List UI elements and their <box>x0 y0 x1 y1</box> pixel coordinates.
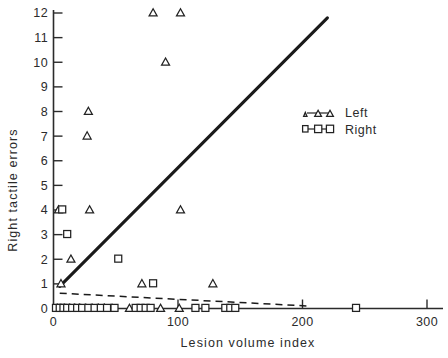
y-tick-label: 5 <box>41 179 48 193</box>
data-point-left <box>138 280 146 287</box>
data-point-right <box>353 304 360 311</box>
legend-label-right: Right <box>345 123 377 137</box>
left-regression-line <box>60 18 328 286</box>
x-tick-label: 0 <box>50 315 57 329</box>
y-tick-label: 0 <box>41 302 48 316</box>
data-point-right <box>202 304 209 311</box>
data-point-right <box>147 304 154 311</box>
data-point-right <box>192 304 199 311</box>
y-tick-label: 9 <box>41 80 48 94</box>
x-tick-label: 100 <box>167 315 189 329</box>
data-point-left <box>83 132 91 139</box>
y-axis-title: Right tactile errors <box>6 128 20 251</box>
x-tick-label: 200 <box>291 315 313 329</box>
data-point-left <box>176 9 184 16</box>
scatter-plot-figure: 0123456789101112 0100200300 Left <box>0 0 448 358</box>
data-point-right <box>104 304 111 311</box>
y-tick-label: 11 <box>34 31 48 45</box>
y-tick-label: 6 <box>41 154 48 168</box>
y-tick-label: 3 <box>41 228 48 242</box>
y-axis-tick-labels: 0123456789101112 <box>33 6 48 316</box>
x-axis-title: Lesion volume index <box>181 336 316 350</box>
legend-square-icon-2 <box>315 125 322 132</box>
legend-triangle-icon-1 <box>304 112 307 116</box>
legend-entry-left: Left <box>304 106 368 120</box>
data-point-left <box>67 255 75 262</box>
data-point-left <box>209 280 217 287</box>
legend: Left Right <box>303 106 377 137</box>
data-point-right <box>64 231 71 238</box>
data-point-right <box>115 255 122 262</box>
data-point-left <box>86 206 94 213</box>
data-point-right <box>111 304 118 311</box>
y-tick-label: 12 <box>33 6 48 20</box>
data-point-right <box>150 280 157 287</box>
y-tick-label: 2 <box>41 253 48 267</box>
legend-triangle-icon-3 <box>327 110 334 116</box>
data-point-left <box>84 107 92 114</box>
data-point-left <box>149 9 157 16</box>
data-point-right <box>232 304 239 311</box>
y-axis: 0123456789101112 <box>33 6 62 316</box>
legend-square-icon-1 <box>303 126 308 132</box>
data-point-left <box>176 206 184 213</box>
y-tick-label: 1 <box>41 277 48 291</box>
legend-square-icon-3 <box>326 125 333 132</box>
y-tick-label: 10 <box>33 56 48 70</box>
y-tick-label: 8 <box>41 105 48 119</box>
x-tick-label: 300 <box>416 315 438 329</box>
data-point-left <box>162 58 170 65</box>
y-tick-label: 7 <box>41 130 48 144</box>
x-axis-tick-labels: 0100200300 <box>50 315 438 329</box>
data-point-right <box>59 206 66 213</box>
data-series-left <box>53 9 217 312</box>
x-axis-ticks <box>178 300 427 309</box>
legend-label-left: Left <box>345 106 368 120</box>
y-axis-ticks <box>54 13 63 309</box>
legend-triangle-icon-2 <box>315 110 322 116</box>
legend-entry-right: Right <box>303 123 377 137</box>
regression-lines <box>60 18 328 306</box>
y-tick-label: 4 <box>41 203 48 217</box>
plot-canvas: 0123456789101112 0100200300 Left <box>0 0 448 358</box>
